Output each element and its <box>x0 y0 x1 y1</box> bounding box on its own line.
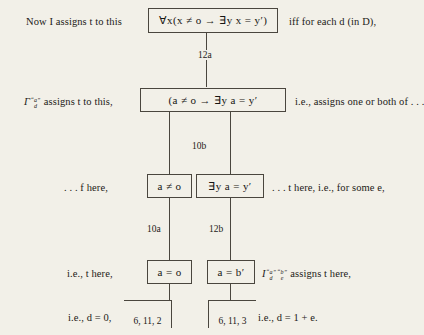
edge-line-12a <box>206 33 207 87</box>
row5-left-label: i.e., d = 0, <box>68 312 112 324</box>
row1-right-label: iff for each d (in D), <box>289 16 376 28</box>
row2-right-text: i.e., assigns one or both of . . . <box>295 96 424 107</box>
interpretation-index-stack-2: “b”e <box>277 269 287 281</box>
box-antecedent-text: a ≠ o <box>158 180 182 192</box>
row2-left-text: assigns t to this, <box>44 96 113 107</box>
row4-right-text: assigns t here, <box>290 268 351 279</box>
gamma-symbol: Γ <box>24 96 30 107</box>
row3-left-label: . . . f here, <box>64 182 108 194</box>
row4-right-label: I“a”d“b”e assigns t here, <box>262 268 351 281</box>
row5-right-label: i.e., d = 1 + e. <box>258 312 318 324</box>
row2-right-label: i.e., assigns one or both of . . . <box>295 96 424 108</box>
row3-left-text: . . . f here, <box>64 182 108 193</box>
row4-left-text: i.e., t here, <box>67 268 113 279</box>
row5-right-text: i.e., d = 1 + e. <box>258 312 318 323</box>
edge-label-10b-text: 10b <box>192 141 206 151</box>
edge-line-12b <box>230 198 231 260</box>
leaf-citation-left: 6, 11, 2 <box>124 300 172 328</box>
leaf-citation-right: 6, 11, 3 <box>208 300 256 328</box>
box-universal-formula-text: ∀x(x ≠ o → ∃y x = y′) <box>159 14 268 27</box>
interpretation-superscript-1: “a” <box>266 269 276 275</box>
interpretation-subscript-2: e <box>277 275 287 281</box>
interpretation-symbol: I <box>262 268 266 279</box>
row1-right-text: iff for each d (in D), <box>289 16 376 27</box>
box-universal-formula: ∀x(x ≠ o → ∃y x = y′) <box>148 8 278 33</box>
row1-left-label: Now I assigns t to this <box>26 16 122 28</box>
edge-line-10b-left <box>169 112 170 174</box>
box-identity-successor-text: a = b′ <box>218 266 245 278</box>
box-identity-zero-text: a = o <box>157 266 181 278</box>
row3-right-text: . . . t here, i.e., for some e, <box>272 182 385 193</box>
row5-left-text: i.e., d = 0, <box>68 312 112 323</box>
gamma-subscript: d <box>31 103 41 109</box>
row4-left-label: i.e., t here, <box>67 268 113 280</box>
gamma-index-stack: “a”d <box>31 97 41 109</box>
box-identity-zero: a = o <box>147 260 192 284</box>
row3-right-label: . . . t here, i.e., for some e, <box>272 182 385 194</box>
box-consequent: ∃y a = y′ <box>196 174 264 198</box>
row2-left-label: Γ“a”d assigns t to this, <box>24 96 113 109</box>
leaf-citation-left-text: 6, 11, 2 <box>133 316 161 326</box>
box-conditional-formula: (a ≠ o → ∃y a = y′ <box>140 88 286 112</box>
box-identity-successor: a = b′ <box>207 260 255 284</box>
interpretation-index-stack-1: “a”d <box>266 269 276 281</box>
edge-label-12a-text: 12a <box>198 50 212 60</box>
edge-label-10b: 10b <box>190 141 208 151</box>
leaf-citation-right-text: 6, 11, 3 <box>218 316 246 326</box>
edge-label-12b-text: 12b <box>209 224 223 234</box>
edge-label-12a: 12a <box>196 50 214 60</box>
box-antecedent: a ≠ o <box>147 174 192 198</box>
interpretation-subscript-1: d <box>266 275 276 281</box>
interpretation-superscript-2: “b” <box>277 269 287 275</box>
box-conditional-formula-text: (a ≠ o → ∃y a = y′ <box>168 94 257 107</box>
edge-label-10a: 10a <box>145 224 163 234</box>
edge-line-10b-right <box>230 112 231 174</box>
edge-label-12b: 12b <box>207 224 225 234</box>
edge-label-10a-text: 10a <box>147 224 161 234</box>
box-consequent-text: ∃y a = y′ <box>208 180 251 193</box>
row1-left-text: Now I assigns t to this <box>26 16 122 27</box>
gamma-superscript: “a” <box>31 97 41 103</box>
edge-line-10a <box>169 198 170 260</box>
